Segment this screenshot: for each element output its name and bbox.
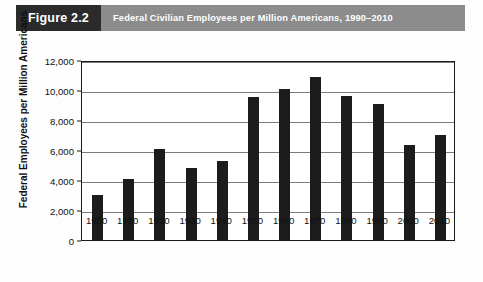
y-tick-label: 12,000 xyxy=(4,56,74,67)
figure-number-label: Figure 2.2 xyxy=(28,11,89,25)
y-tick-mark xyxy=(77,211,81,212)
y-tick-label: 2,000 xyxy=(4,206,74,217)
bar xyxy=(217,161,228,241)
y-tick-mark xyxy=(77,121,81,122)
gridline xyxy=(82,182,454,183)
x-tick-label: 2010 xyxy=(419,215,459,226)
gridline xyxy=(82,152,454,153)
figure-header-banner: Figure 2.2 Federal Civilian Employees pe… xyxy=(16,5,465,31)
y-tick-label: 0 xyxy=(4,236,74,247)
y-tick-label: 6,000 xyxy=(4,146,74,157)
y-tick-mark xyxy=(77,61,81,62)
y-tick-mark xyxy=(77,151,81,152)
y-tick-mark xyxy=(77,241,81,242)
gridline xyxy=(82,62,454,63)
bar xyxy=(186,168,197,240)
gridline xyxy=(82,212,454,213)
gridline xyxy=(82,122,454,123)
plot-frame xyxy=(81,61,455,241)
figure-page: Figure 2.2 Federal Civilian Employees pe… xyxy=(0,0,483,282)
y-tick-label: 10,000 xyxy=(4,86,74,97)
y-tick-mark xyxy=(77,181,81,182)
figure-title: Federal Civilian Employees per Million A… xyxy=(113,5,393,31)
figure-number-box: Figure 2.2 xyxy=(16,5,101,31)
bar xyxy=(154,149,165,241)
y-tick-mark xyxy=(77,91,81,92)
y-tick-label: 8,000 xyxy=(4,116,74,127)
bar xyxy=(123,179,134,241)
chart-area: Federal Employees per Million Americans … xyxy=(0,31,483,282)
gridline xyxy=(82,92,454,93)
y-tick-label: 4,000 xyxy=(4,176,74,187)
